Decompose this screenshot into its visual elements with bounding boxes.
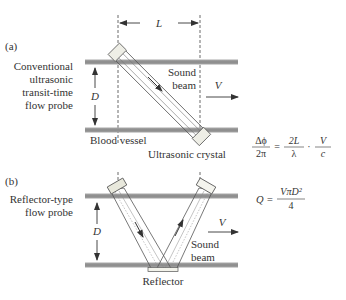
- sound-beam-label-b-line-2: beam: [191, 251, 215, 263]
- panel-b-title-line-2: flow probe: [25, 206, 73, 218]
- flow-rate-equation: Q = VπD² 4: [256, 186, 305, 211]
- svg-text:·: ·: [307, 141, 310, 152]
- sound-beam-label-line-1: Sound: [168, 66, 197, 78]
- velocity-label: V: [215, 79, 223, 91]
- flow-probe-diagram: (a) Conventional ultrasonic transit-time…: [0, 0, 346, 300]
- beam-direction-arrow-icon: [148, 77, 162, 91]
- svg-text:2π: 2π: [256, 148, 266, 159]
- svg-text:Q =: Q =: [256, 194, 273, 205]
- beam-down-arrow-icon: [135, 222, 143, 237]
- svg-text:=: =: [274, 141, 280, 152]
- blood-vessel-label: Blood vessel: [90, 134, 147, 146]
- panel-b-title-line-1: Reflector-type: [10, 193, 73, 205]
- vessel-wall-top-b: [85, 194, 238, 199]
- crystal-top: [108, 43, 126, 61]
- dimension-D-label-b: D: [92, 225, 101, 237]
- panel-a-tag: (a): [5, 40, 18, 53]
- svg-text:λ: λ: [292, 148, 297, 159]
- svg-text:Δϕ: Δϕ: [255, 135, 267, 146]
- ultrasonic-crystal-label: Ultrasonic crystal: [148, 148, 226, 160]
- sound-beam-label-line-2: beam: [172, 79, 196, 91]
- panel-b-tag: (b): [5, 175, 18, 188]
- vessel-wall-bottom: [85, 128, 238, 133]
- reflector: [148, 268, 178, 272]
- sound-beam-label-b-line-1: Sound: [191, 238, 220, 250]
- dimension-L-label: L: [155, 17, 162, 29]
- vessel-wall-bottom-b: [85, 263, 238, 268]
- svg-text:V: V: [320, 135, 328, 146]
- panel-a: (a) Conventional ultrasonic transit-time…: [5, 15, 331, 160]
- reflector-label: Reflector: [143, 275, 184, 287]
- dimension-D-label: D: [90, 90, 99, 102]
- svg-text:2L: 2L: [289, 135, 300, 146]
- velocity-label-b: V: [219, 216, 227, 228]
- svg-text:c: c: [321, 148, 326, 159]
- svg-text:4: 4: [289, 200, 294, 211]
- panel-b: (b) Reflector-type flow probe D: [5, 172, 305, 287]
- svg-text:VπD²: VπD²: [280, 186, 302, 197]
- panel-a-title-line-3: transit-time: [22, 86, 73, 98]
- crystal-transmitter: [107, 178, 127, 194]
- crystal-receiver: [196, 178, 216, 194]
- panel-a-title-line-4: flow probe: [25, 99, 73, 111]
- sound-beam-down: [107, 178, 172, 270]
- vessel-wall-top: [85, 60, 238, 65]
- panel-a-title-line-2: ultrasonic: [30, 73, 73, 85]
- beam-up-arrow-icon: [175, 220, 183, 236]
- panel-a-title-line-1: Conventional: [14, 60, 73, 72]
- transit-time-equation: Δϕ 2π = 2L λ · V c: [252, 135, 331, 159]
